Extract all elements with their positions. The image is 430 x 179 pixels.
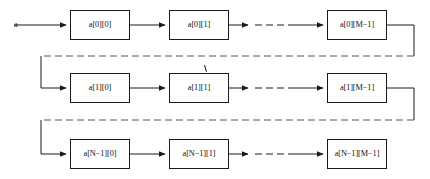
array-cell-a-1-1: a[1][1]	[169, 73, 229, 103]
array-cell-a-0-0: a[0][0]	[70, 10, 130, 40]
array-cell-label: a[1][1]	[188, 84, 210, 92]
array-cell-a-0-1: a[0][1]	[169, 10, 229, 40]
array-cell-a-1-m-1: a[1][M−1]	[327, 73, 387, 103]
array-cell-label: a[1][M−1]	[340, 84, 374, 92]
array-traversal-diagram: a a[0][0] a[0][1] a[0][M−1] a[1][0] a[1]…	[0, 0, 430, 179]
array-cell-label: a[1][0]	[89, 84, 111, 92]
array-cell-label: a[0][0]	[89, 21, 111, 29]
array-cell-label: a[N−1][0]	[84, 150, 117, 158]
input-label: a	[14, 21, 18, 29]
array-cell-a-n-1-1: a[N−1][1]	[169, 139, 229, 169]
array-cell-a-n-1-m-1: a[N−1][M−1]	[327, 139, 387, 169]
array-cell-label: a[N−1][M−1]	[335, 150, 380, 158]
array-cell-label: a[0][1]	[188, 21, 210, 29]
array-cell-label: a[0][M−1]	[340, 21, 374, 29]
array-cell-label: a[N−1][1]	[183, 150, 216, 158]
array-cell-a-0-m-1: a[0][M−1]	[327, 10, 387, 40]
array-cell-a-n-1-0: a[N−1][0]	[70, 139, 130, 169]
array-cell-a-1-0: a[1][0]	[70, 73, 130, 103]
